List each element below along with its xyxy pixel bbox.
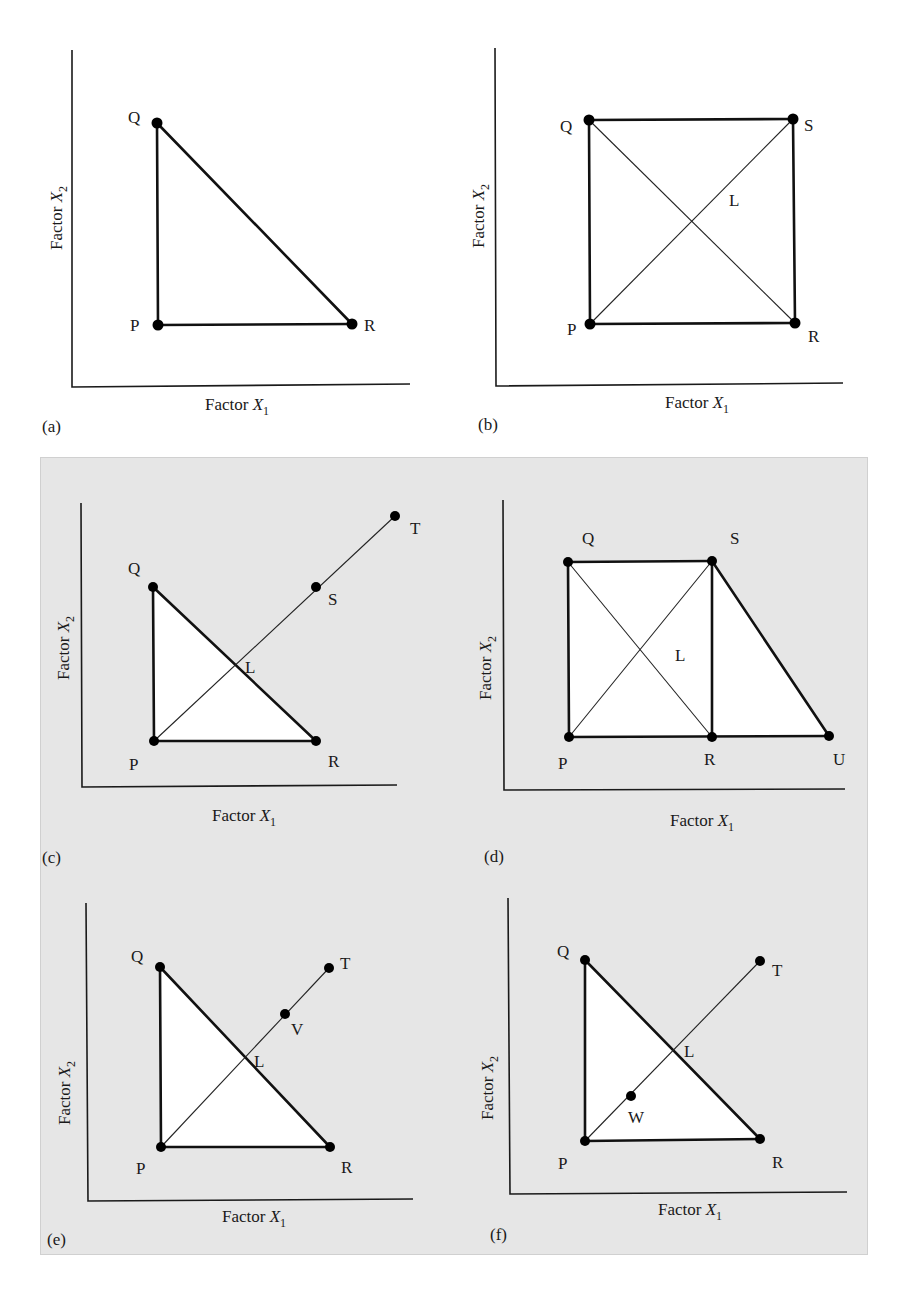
point-q [155,962,165,972]
label-r: R [341,1158,353,1177]
y-axis-label: Factor X2 [47,186,70,250]
label-p: P [130,316,139,335]
panel-a: Q P R Factor X2 Factor X1 (a) [42,50,410,436]
label-t: T [772,961,783,980]
point-p [580,1136,590,1146]
point-q [563,557,573,567]
point-s [707,556,717,566]
point-t [390,511,400,521]
label-r: R [704,750,716,769]
point-p [149,736,159,746]
experimental-design-figure: Q P R Factor X2 Factor X1 (a) Q S P R L … [0,0,902,1303]
point-t [324,963,334,973]
point-q [152,118,163,129]
edge-qs [568,561,712,562]
figure-canvas: Q P R Factor X2 Factor X1 (a) Q S P R L … [0,0,902,1303]
edge-qs [589,119,793,120]
label-q: Q [582,529,594,548]
point-r [707,732,717,742]
point-s [788,114,799,125]
point-t [755,956,765,966]
label-r: R [328,752,340,771]
panel-b: Q S P R L Factor X2 Factor X1 (b) [469,48,843,434]
panel-tag-c: (c) [42,848,61,867]
edge-qp [589,120,590,324]
label-l: L [254,1052,264,1071]
point-v [280,1009,290,1019]
label-p: P [136,1159,145,1178]
point-r [347,319,358,330]
panel-tag-e: (e) [47,1230,66,1249]
label-p: P [558,1154,567,1173]
point-u [824,731,834,741]
edge-sr [793,119,795,323]
point-p [156,1142,166,1152]
point-q [584,115,595,126]
point-p [153,320,164,331]
point-s [311,582,321,592]
x-axis-label: Factor X1 [205,395,269,418]
edge-qp [153,587,154,741]
x-axis-label: Factor X1 [212,806,276,829]
point-r [311,736,321,746]
label-q: Q [128,108,140,127]
point-q [148,582,158,592]
diagonal-ps [590,119,793,324]
label-l: L [675,646,685,665]
label-v: V [291,1020,304,1039]
label-l: L [729,191,739,210]
label-r: R [772,1153,784,1172]
x-axis-label: Factor X1 [658,1200,722,1223]
edge-pq [157,123,158,325]
x-axis-label: Factor X1 [665,393,729,416]
panel-c: Q P R S T L Factor X2 Factor X1 (c) [42,503,421,867]
point-w [626,1091,636,1101]
label-p: P [567,320,576,339]
point-r [755,1134,765,1144]
x-axis-label: Factor X1 [222,1207,286,1230]
label-l: L [245,658,255,677]
edge-pu [569,736,829,737]
label-t: T [410,519,421,538]
panel-tag-a: (a) [42,417,61,436]
y-axis-label: Factor X2 [478,1056,501,1120]
label-u: U [833,750,845,769]
edge-qp [160,967,161,1147]
panel-d: Q S P R U L Factor X2 Factor X1 (d) [476,500,845,866]
edge-qp [568,562,569,737]
point-p [564,732,574,742]
panel-tag-b: (b) [478,415,498,434]
label-q: Q [131,947,143,966]
point-r [325,1142,335,1152]
edge-pr [158,324,352,325]
y-axis-label: Factor X2 [476,636,499,700]
point-r [790,318,801,329]
y-axis-label: Factor X2 [469,184,492,248]
panel-tag-d: (d) [484,847,504,866]
label-w: W [628,1108,645,1127]
y-axis-label: Factor X2 [54,616,77,680]
label-s: S [730,529,739,548]
panel-d-region-fill [568,561,829,737]
label-q: Q [557,942,569,961]
y-axis-label: Factor X2 [55,1061,78,1125]
label-p: P [558,754,567,773]
panel-f: Q T W L P R Factor X2 Factor X1 (f) [478,898,847,1244]
point-p [585,319,596,330]
label-q: Q [128,559,140,578]
label-s: S [804,116,813,135]
panel-e: Q T V L P R Factor X2 Factor X1 (e) [47,903,413,1249]
label-s: S [328,590,337,609]
panel-b-axes [495,48,843,386]
label-q: Q [560,117,572,136]
label-r: R [808,327,820,346]
label-t: T [340,954,351,973]
point-q [580,955,590,965]
label-l: L [684,1042,694,1061]
x-axis-label: Factor X1 [670,811,734,834]
edge-pr [590,323,795,324]
panel-c-axes [81,503,397,787]
label-p: P [129,755,138,774]
label-r: R [364,316,376,335]
panel-tag-f: (f) [490,1225,507,1244]
